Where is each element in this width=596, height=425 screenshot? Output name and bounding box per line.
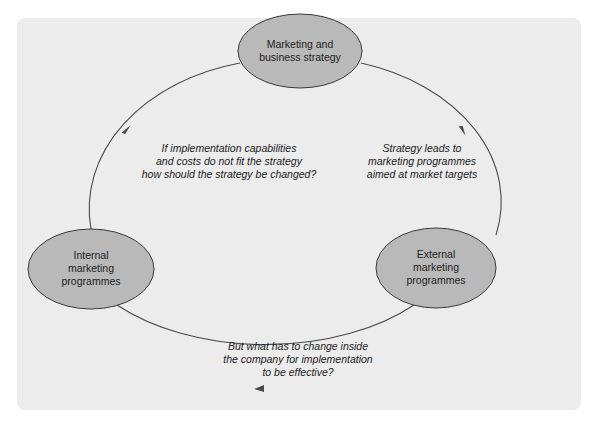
arrow-left-icon — [254, 385, 264, 392]
label-line: programmes — [376, 274, 496, 287]
label-line: programmes — [28, 275, 154, 288]
annotation-line: to be effective? — [208, 366, 388, 379]
label-line: marketing — [376, 261, 496, 274]
annotation-line: marketing programmes — [352, 155, 492, 168]
arrow-down-right-icon — [457, 125, 466, 135]
node-internal-label: Internal marketing programmes — [28, 249, 154, 288]
annotation-external-to-internal: But what has to change inside the compan… — [208, 340, 388, 379]
annotation-line: If implementation capabilities — [125, 142, 333, 155]
annotation-line: aimed at market targets — [352, 168, 492, 181]
annotation-line: how should the strategy be changed? — [125, 168, 333, 181]
annotation-line: and costs do not fit the strategy — [125, 155, 333, 168]
annotation-strategy-to-external: Strategy leads to marketing programmes a… — [352, 142, 492, 181]
annotation-line: But what has to change inside — [208, 340, 388, 353]
edge-external-to-internal — [117, 305, 414, 345]
label-line: External — [376, 248, 496, 261]
label-line: Internal — [28, 249, 154, 262]
node-external-label: External marketing programmes — [376, 248, 496, 287]
label-line: Marketing and — [238, 38, 362, 51]
label-line: marketing — [28, 262, 154, 275]
label-line: business strategy — [238, 51, 362, 64]
annotation-line: Strategy leads to — [352, 142, 492, 155]
annotation-internal-to-strategy: If implementation capabilities and costs… — [125, 142, 333, 181]
node-strategy-label: Marketing and business strategy — [238, 38, 362, 64]
annotation-line: the company for implementation — [208, 353, 388, 366]
